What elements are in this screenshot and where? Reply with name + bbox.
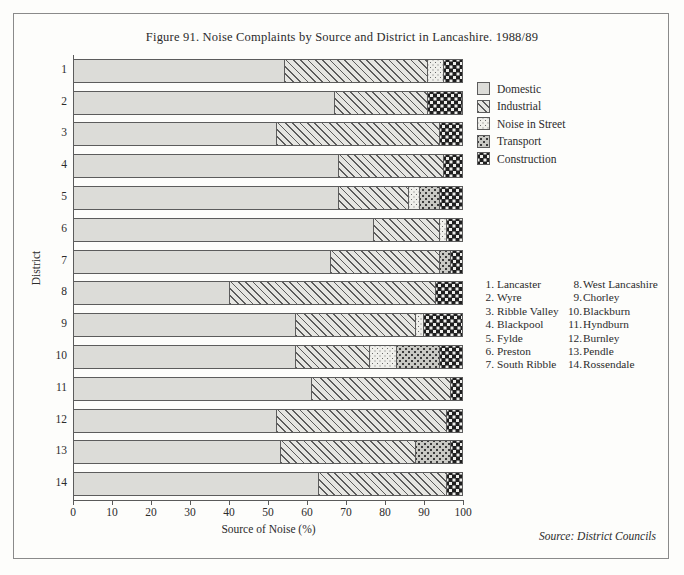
y-tick-label-5: 5 xyxy=(43,190,67,202)
bar-segment-domestic xyxy=(74,123,276,145)
district-key-number: 1. xyxy=(477,278,494,291)
source-note: Source: District Councils xyxy=(539,530,656,542)
bar-segment-construction xyxy=(446,410,462,432)
district-key-item-14: 14.Rossendale xyxy=(565,358,658,371)
x-tick-label-70: 70 xyxy=(326,506,366,518)
legend-label: Industrial xyxy=(497,100,541,112)
bar-segment-industrial xyxy=(338,155,443,177)
x-tick-label-50: 50 xyxy=(248,506,288,518)
district-key-name: Pendle xyxy=(583,345,614,357)
bar-segment-industrial xyxy=(330,251,439,273)
bar-district-5 xyxy=(73,186,463,210)
x-tick-label-30: 30 xyxy=(170,506,210,518)
district-key-number: 9. xyxy=(565,291,582,304)
y-tick-label-11: 11 xyxy=(43,381,67,393)
bar-district-8 xyxy=(73,281,463,305)
bar-segment-industrial xyxy=(295,346,369,368)
district-key-name: Chorley xyxy=(583,291,619,303)
legend-item-domestic: Domestic xyxy=(477,80,657,98)
y-tick-label-1: 1 xyxy=(43,63,67,75)
x-tick-50 xyxy=(268,500,269,505)
y-tick-label-13: 13 xyxy=(43,444,67,456)
district-key-item-5: 5.Fylde xyxy=(477,332,565,345)
bar-segment-domestic xyxy=(74,187,338,209)
legend-swatch-icon xyxy=(477,135,490,148)
bar-segment-street xyxy=(369,346,396,368)
district-key-item-13: 13.Pendle xyxy=(565,345,658,358)
bar-segment-transport xyxy=(419,187,438,209)
bar-segment-street xyxy=(439,219,447,241)
bar-segment-industrial xyxy=(338,187,408,209)
x-tick-80 xyxy=(385,500,386,505)
district-key-item-12: 12.Burnley xyxy=(565,332,658,345)
bar-segment-construction xyxy=(423,314,462,336)
district-key-item-4: 4.Blackpool xyxy=(477,318,565,331)
legend-label: Construction xyxy=(497,153,556,165)
y-tick-label-14: 14 xyxy=(43,476,67,488)
district-key-name: Preston xyxy=(497,345,531,357)
bar-segment-construction xyxy=(439,123,462,145)
y-tick-label-3: 3 xyxy=(43,126,67,138)
district-key-name: Lancaster xyxy=(497,278,541,290)
legend-swatch-icon xyxy=(477,117,490,130)
bar-segment-domestic xyxy=(74,282,229,304)
x-tick-70 xyxy=(346,500,347,505)
bar-segment-domestic xyxy=(74,251,330,273)
legend-item-industrial: Industrial xyxy=(477,98,657,116)
district-key-name: Hyndburn xyxy=(583,318,629,330)
district-key-number: 6. xyxy=(477,345,494,358)
district-key-name: West Lancashire xyxy=(583,278,658,290)
bar-segment-construction xyxy=(446,473,462,495)
district-key-item-10: 10.Blackburn xyxy=(565,305,658,318)
legend-label: Domestic xyxy=(497,83,541,95)
district-key-number: 10. xyxy=(565,305,582,318)
bar-segment-construction xyxy=(446,219,462,241)
y-tick-label-4: 4 xyxy=(43,158,67,170)
x-tick-label-0: 0 xyxy=(53,506,93,518)
bar-segment-construction xyxy=(443,155,462,177)
bar-segment-construction xyxy=(450,441,462,463)
x-tick-label-40: 40 xyxy=(209,506,249,518)
x-tick-30 xyxy=(190,500,191,505)
legend-swatch-icon xyxy=(477,100,490,113)
bar-district-12 xyxy=(73,409,463,433)
bar-district-6 xyxy=(73,218,463,242)
bar-segment-construction xyxy=(427,92,462,114)
x-tick-100 xyxy=(463,500,464,505)
bar-district-4 xyxy=(73,154,463,178)
district-key-item-6: 6.Preston xyxy=(477,345,565,358)
bar-segment-domestic xyxy=(74,473,318,495)
district-key-name: Wyre xyxy=(497,291,521,303)
bar-district-1 xyxy=(73,59,463,83)
district-key-name: Burnley xyxy=(583,332,619,344)
y-tick-label-8: 8 xyxy=(43,285,67,297)
x-tick-label-90: 90 xyxy=(404,506,444,518)
x-tick-label-10: 10 xyxy=(92,506,132,518)
bar-segment-industrial xyxy=(295,314,415,336)
bar-segment-domestic xyxy=(74,378,311,400)
y-tick-label-10: 10 xyxy=(43,349,67,361)
plot-area xyxy=(73,55,463,500)
district-key-number: 12. xyxy=(565,332,582,345)
x-tick-10 xyxy=(112,500,113,505)
bar-segment-industrial xyxy=(229,282,435,304)
bar-district-14 xyxy=(73,472,463,496)
bar-segment-domestic xyxy=(74,60,284,82)
bar-segment-transport xyxy=(396,346,439,368)
bar-segment-transport xyxy=(415,441,450,463)
district-key-item-7: 7.South Ribble xyxy=(477,358,565,371)
x-tick-label-80: 80 xyxy=(365,506,405,518)
bar-segment-transport xyxy=(439,251,451,273)
bar-district-10 xyxy=(73,345,463,369)
bar-segment-street xyxy=(415,314,423,336)
y-tick-label-12: 12 xyxy=(43,413,67,425)
district-key-name: Blackburn xyxy=(583,305,630,317)
district-key-item-3: 3.Ribble Valley xyxy=(477,305,565,318)
legend-item-construction: Construction xyxy=(477,150,657,168)
x-tick-0 xyxy=(73,500,74,505)
district-key-name: Rossendale xyxy=(583,358,634,370)
district-key-number: 5. xyxy=(477,332,494,345)
x-tick-90 xyxy=(424,500,425,505)
district-key-item-9: 9.Chorley xyxy=(565,291,658,304)
bar-segment-street xyxy=(408,187,420,209)
